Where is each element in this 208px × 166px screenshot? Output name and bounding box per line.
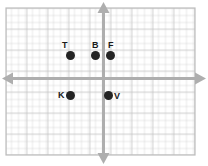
data-point-label-F: F [108,41,114,50]
data-point-T[interactable] [66,51,75,60]
data-point-F[interactable] [106,51,115,60]
data-point-B[interactable] [91,51,100,60]
coordinate-grid-figure: T B F K V [0,0,208,166]
grid-canvas [0,0,208,166]
data-point-label-B: B [92,41,99,50]
data-point-V[interactable] [104,91,113,100]
data-point-label-K: K [58,91,65,100]
data-point-label-V: V [114,92,120,101]
grid-lines [6,8,195,155]
data-point-label-T: T [62,41,68,50]
data-point-K[interactable] [66,91,75,100]
